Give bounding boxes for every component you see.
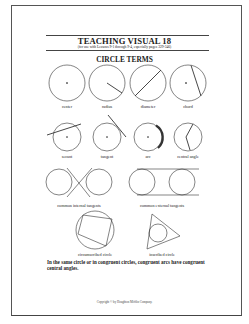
label-central-angle: central angle (158, 154, 218, 159)
label-inscribed-circle: inscribed circle (132, 252, 192, 257)
label-common-internal-tangents: common internal tangents (44, 203, 114, 208)
circumscribed-circle-figure (76, 211, 114, 249)
label-common-external-tangents: common external tangents (127, 203, 197, 208)
central-angle-figure (174, 123, 202, 151)
circle-diagrams (0, 0, 249, 324)
copyright-text: Copyright © by Houghton Mifflin Company. (0, 300, 249, 304)
secant-figure (47, 123, 81, 151)
diameter-figure (130, 65, 166, 101)
inscribed-circle-figure (147, 214, 180, 249)
center-point-icon (66, 82, 67, 83)
radius-figure (89, 65, 125, 101)
label-circumscribed-circle: circumscribed circle (65, 252, 125, 257)
common-external-tangents-figure (129, 169, 199, 195)
arc-figure (134, 123, 163, 151)
theorem-note: In the same circle or in congruent circl… (47, 259, 207, 271)
label-chord: chord (158, 104, 218, 109)
center-figure (49, 65, 85, 101)
tangent-figure (93, 115, 126, 151)
common-internal-tangents-figure (46, 168, 112, 197)
chord-figure (170, 65, 206, 101)
